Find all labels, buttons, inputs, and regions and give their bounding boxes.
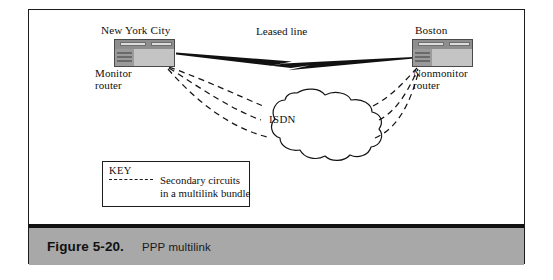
key-legend-description-line1: Secondary circuits: [160, 174, 250, 187]
secondary-circuits-west: [168, 67, 267, 137]
router-slot: [418, 42, 444, 46]
secondary-circuit-3-west: [168, 69, 267, 137]
node-role-label-line1: Monitor: [95, 67, 132, 79]
router-port: [415, 56, 430, 58]
router-icon-new-york-city: [114, 39, 175, 67]
router-slot: [449, 42, 470, 46]
node-role-label-line2: router: [95, 79, 132, 91]
router-chassis-body: [432, 49, 472, 66]
router-port: [415, 52, 430, 54]
link-label-leased-line: Leased line: [256, 25, 307, 38]
router-slot: [151, 42, 172, 46]
router-port-panel: [413, 49, 433, 67]
router-port: [117, 52, 132, 54]
key-legend-description: Secondary circuits in a multilink bundle: [160, 174, 250, 201]
router-port: [117, 56, 132, 58]
figure-caption-title: PPP multilink: [142, 241, 211, 253]
router-port: [415, 60, 430, 62]
secondary-circuit-1-east: [373, 68, 417, 106]
router-slot: [120, 42, 146, 46]
key-legend-title: KEY: [109, 165, 132, 176]
node-label-boston: Boston: [415, 24, 448, 37]
figure-frame: New York City Boston Leased line Monitor…: [28, 9, 525, 264]
key-legend-box: KEY Secondary circuits in a multilink bu…: [102, 161, 250, 207]
router-chassis-body: [134, 49, 174, 66]
router-icon-boston: [412, 39, 473, 67]
node-role-label-new-york-city: Monitor router: [95, 67, 132, 92]
secondary-circuit-1-west: [169, 67, 263, 106]
node-role-label-line2: router: [413, 79, 468, 91]
router-port: [117, 60, 132, 62]
node-role-label-boston: Nonmonitor router: [413, 67, 468, 92]
node-label-new-york-city: New York City: [101, 24, 170, 37]
key-legend-description-line2: in a multilink bundle: [160, 187, 250, 200]
diagram-canvas: New York City Boston Leased line Monitor…: [29, 10, 524, 224]
figure-caption-number: Figure 5-20.: [47, 239, 124, 254]
dashed-line-sample-icon: [109, 179, 153, 180]
router-port-panel: [115, 49, 135, 67]
node-label-isdn: ISDN: [269, 113, 296, 125]
leased-line-link: [176, 53, 414, 71]
lightning-bolt-icon: [176, 53, 414, 71]
figure-caption-band: Figure 5-20. PPP multilink: [29, 228, 524, 265]
node-role-label-line1: Nonmonitor: [413, 67, 468, 79]
